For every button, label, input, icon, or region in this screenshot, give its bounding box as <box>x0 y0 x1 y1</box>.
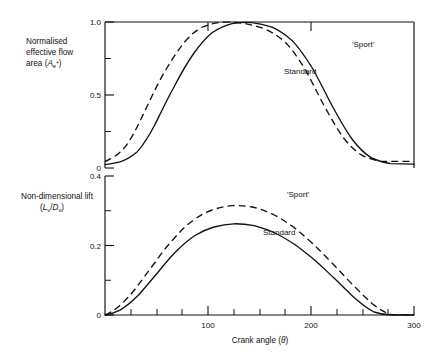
upper-y-axis-label-line3: area (Ae*) <box>26 59 62 69</box>
upper-plot: 1.0 0.5 0 Normalised effective flow area… <box>26 18 414 173</box>
lower-xtick-label-100: 100 <box>201 321 215 330</box>
chart-svg: 1.0 0.5 0 Normalised effective flow area… <box>0 0 437 353</box>
upper-series-label-standard: Standard <box>284 67 316 76</box>
lower-series-label-sport: 'Sport' <box>287 190 310 199</box>
x-axis-label: Crank angle (θ) <box>232 336 289 345</box>
lower-y-axis-label-line1: Non-dimensional lift <box>21 192 94 201</box>
lower-series-standard-curve <box>105 224 414 315</box>
lower-ytick-label-0.4: 0.4 <box>90 172 102 181</box>
lower-ytick-label-0.2: 0.2 <box>90 242 102 251</box>
lower-series-sport-curve <box>105 206 414 315</box>
lower-series-label-standard: Standard <box>263 228 295 237</box>
lower-xtick-label-200: 200 <box>304 321 318 330</box>
upper-y-axis-label-line1: Normalised <box>26 37 68 46</box>
lower-xtick-label-300: 300 <box>407 321 421 330</box>
upper-y-axis-label-line2: effective flow <box>26 48 73 57</box>
upper-series-label-sport: 'Sport' <box>352 40 375 49</box>
lower-y-axis-label-line2: (Lv/Dv) <box>40 203 64 213</box>
figure-container: 1.0 0.5 0 Normalised effective flow area… <box>0 0 437 353</box>
lower-plot: 0.4 0.2 0 100 200 300 Non-dimensional li… <box>21 172 421 345</box>
upper-ytick-label-0.5: 0.5 <box>90 91 102 100</box>
upper-ytick-label-1.0: 1.0 <box>90 18 102 27</box>
lower-ytick-label-0: 0 <box>97 311 102 320</box>
